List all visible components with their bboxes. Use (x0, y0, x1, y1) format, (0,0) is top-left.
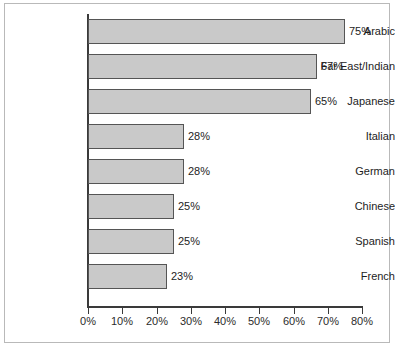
bar-value-label: 25% (178, 235, 200, 248)
category-label: German (313, 165, 395, 178)
x-axis-tick (225, 308, 226, 314)
x-axis-tick (294, 308, 295, 314)
bar-value-label: 28% (188, 165, 210, 178)
x-axis-tick (157, 308, 158, 314)
category-label: French (313, 270, 395, 283)
bar (88, 264, 167, 289)
bar (88, 194, 174, 219)
x-axis-tick (259, 308, 260, 314)
chart-page: 0%10%20%30%40%50%60%70%80% ArabicFar Eas… (0, 0, 395, 353)
bar (88, 89, 311, 114)
bar (88, 54, 317, 79)
bar-value-label: 25% (178, 200, 200, 213)
bar-value-label: 65% (315, 95, 337, 108)
x-axis-tick (328, 308, 329, 314)
category-label: Italian (313, 130, 395, 143)
x-axis-tick (88, 308, 89, 314)
bar (88, 124, 184, 149)
x-axis-tick (362, 308, 363, 314)
bar (88, 229, 174, 254)
bar (88, 159, 184, 184)
category-label: Chinese (313, 200, 395, 213)
category-label: Spanish (313, 235, 395, 248)
x-axis-tick (191, 308, 192, 314)
x-axis-tick-label: 50% (239, 315, 279, 328)
x-axis-tick-label: 10% (102, 315, 142, 328)
x-axis-tick (122, 308, 123, 314)
bar-value-label: 23% (171, 270, 193, 283)
bar-value-label: 28% (188, 130, 210, 143)
bar-value-label: 67% (321, 60, 343, 73)
plot-area: 0%10%20%30%40%50%60%70%80% ArabicFar Eas… (0, 0, 395, 353)
x-axis-tick-label: 80% (342, 315, 382, 328)
bar (88, 19, 345, 44)
bar-value-label: 75% (349, 25, 371, 38)
